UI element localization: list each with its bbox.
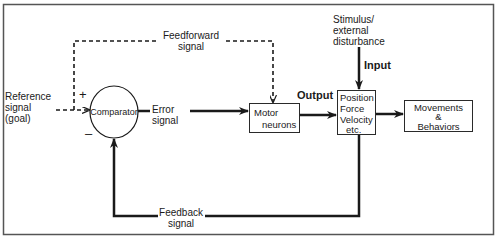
feedforward-signal-label: Feedforward signal: [157, 30, 225, 52]
plus-sign: +: [79, 89, 87, 100]
position-force-velocity-box: Position Force Velocity etc.: [337, 90, 376, 135]
diagram-canvas: Reference signal (goal) + – Comparator E…: [0, 0, 497, 243]
feedback-signal-label: Feedback signal: [156, 207, 206, 229]
output-label: Output: [297, 90, 333, 101]
movements-behaviors-box: Movements & Behaviors: [404, 100, 473, 132]
feedback-path: [205, 134, 359, 216]
comparator-label: Comparator: [90, 107, 138, 118]
minus-sign: –: [85, 128, 92, 139]
error-signal-label: Error signal: [152, 104, 178, 126]
motor-neurons-box: Motor neurons: [249, 103, 300, 133]
reference-signal-label: Reference signal (goal): [5, 91, 51, 124]
stimulus-label: Stimulus/ external disturbance: [333, 14, 385, 47]
input-label: Input: [364, 60, 391, 71]
